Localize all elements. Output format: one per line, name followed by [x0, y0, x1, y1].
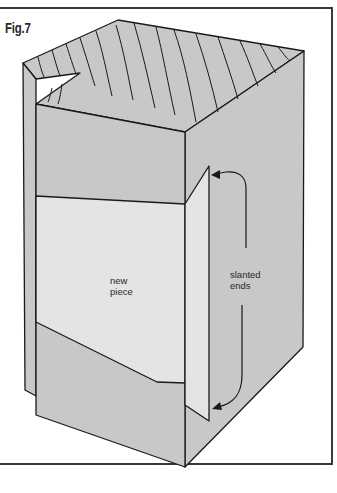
- slanted-ends-label: slanted ends: [230, 269, 261, 291]
- slanted-ends-label-line1: slanted: [230, 269, 261, 280]
- new-piece-label: new piece: [110, 275, 133, 297]
- left-sheet: [23, 63, 36, 396]
- box-illustration: [0, 0, 337, 493]
- new-piece-label-line2: piece: [110, 286, 133, 297]
- new-piece-label-line1: new: [110, 275, 133, 286]
- slanted-end-flap: [185, 166, 209, 421]
- slanted-ends-label-line2: ends: [230, 280, 261, 291]
